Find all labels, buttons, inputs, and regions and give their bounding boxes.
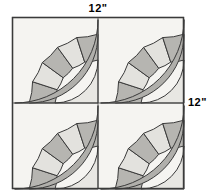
quilt-block-diagram <box>0 0 213 193</box>
diagram-canvas: 12" 12" <box>0 0 213 193</box>
